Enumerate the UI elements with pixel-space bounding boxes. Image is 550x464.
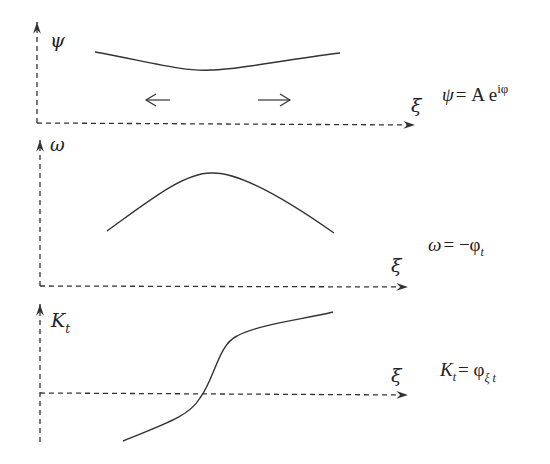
y-label-omega: ω — [50, 134, 65, 155]
left-arrow-icon — [146, 94, 170, 106]
right-arrow-icon — [258, 94, 290, 106]
frequency-curve — [107, 173, 334, 233]
y-label-psi: ψ — [50, 29, 66, 51]
equation-omega: ω= −φt — [428, 234, 485, 259]
panel-omega: ω ξ ω= −φt — [40, 134, 485, 287]
y-label-kt: Kt — [50, 309, 70, 336]
diagram-canvas: ψ ξ ψ= A eiφ ω ξ ω= −φt Kt ξ Kt= φξ t — [0, 0, 550, 464]
envelope-curve — [95, 52, 340, 70]
equation-psi: ψ= A eiφ — [442, 81, 508, 105]
panel-kt: Kt ξ Kt= φξ t — [40, 304, 497, 442]
x-label-kt: ξ — [391, 364, 403, 386]
equation-kt: Kt= φξ t — [439, 359, 497, 385]
x-axis-kt — [40, 393, 408, 395]
panel-psi: ψ ξ ψ= A eiφ — [37, 22, 508, 125]
x-label-psi: ξ — [411, 94, 423, 116]
x-axis-psi — [37, 123, 415, 125]
x-axis-omega — [40, 286, 408, 287]
wavenumber-curve — [123, 312, 333, 441]
x-label-omega: ξ — [391, 254, 403, 276]
